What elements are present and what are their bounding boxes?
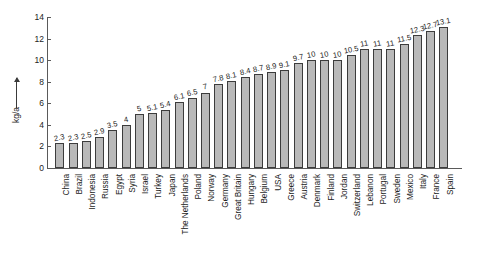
bar[interactable] (360, 49, 369, 168)
bar-value-label: 11 (373, 40, 382, 49)
bar[interactable] (175, 102, 184, 168)
x-axis-label: Finland (328, 174, 336, 201)
bar[interactable] (148, 113, 157, 168)
bar-value-label: 5.1 (146, 103, 158, 113)
x-axis-label: Jordan (341, 174, 349, 199)
bar-value-label: 10 (306, 50, 316, 59)
bar[interactable] (280, 70, 289, 168)
bar[interactable] (227, 81, 236, 168)
bar-value-label: 9.7 (292, 53, 304, 63)
bar[interactable] (333, 60, 342, 168)
x-axis-label: Norway (208, 174, 216, 202)
bar-value-label: 8.4 (239, 67, 251, 77)
bar[interactable] (108, 130, 117, 168)
x-axis-label: China (63, 174, 71, 195)
bar-slot: 11.5 (398, 17, 410, 168)
bar-value-label: 2.3 (67, 133, 79, 143)
x-axis-label: USA (275, 174, 283, 191)
bar-value-label: 2.5 (80, 131, 92, 141)
x-axis-label: Germany (222, 174, 230, 208)
bar-slot: 8.1 (226, 17, 238, 168)
bar[interactable] (267, 72, 276, 168)
bar-value-label: 5.4 (160, 100, 172, 110)
bar-value-label: 2.3 (54, 133, 66, 143)
bar[interactable] (95, 137, 104, 168)
bar[interactable] (82, 141, 91, 168)
bar-slot: 5.4 (160, 17, 172, 168)
y-axis-tick-label: 12 (35, 35, 44, 44)
x-axis-label: Turkey (155, 174, 163, 199)
y-axis-tick-label: 2 (39, 142, 44, 151)
bar-slot: 10 (332, 17, 344, 168)
bar[interactable] (320, 60, 329, 168)
bar-slot: 11 (385, 17, 397, 168)
bar-slot: 8.9 (266, 17, 278, 168)
x-axis-label: The Netherlands (182, 174, 190, 235)
bar-slot: 12.3 (412, 17, 424, 168)
bar-value-label: 10.5 (343, 44, 359, 55)
bar[interactable] (55, 143, 64, 168)
bar[interactable] (307, 60, 316, 168)
bar-slot: 12.7 (425, 17, 437, 168)
bar[interactable] (135, 114, 144, 168)
bar-value-label: 11.5 (396, 34, 411, 44)
y-axis-tick-label: 4 (39, 121, 44, 130)
y-axis-tick-label: 6 (39, 99, 44, 108)
bar[interactable] (122, 125, 131, 168)
bar-value-label: 4 (123, 115, 129, 123)
bar-slot: 4 (120, 17, 132, 168)
x-axis-label: Portugal (380, 174, 388, 205)
bar-slot: 8.7 (253, 17, 265, 168)
bar-slot: 5.1 (147, 17, 159, 168)
bar[interactable] (426, 31, 435, 168)
bar[interactable] (400, 44, 409, 168)
bar[interactable] (347, 55, 356, 168)
bar-slot: 9.1 (279, 17, 291, 168)
y-axis-title-group: kg/a (9, 78, 25, 140)
bar-slot: 9.7 (293, 17, 305, 168)
bar[interactable] (69, 143, 78, 168)
bar-value-label: 13.1 (435, 16, 451, 27)
x-axis-label: Lebanon (367, 174, 375, 206)
bar[interactable] (294, 63, 303, 168)
bar-slot: 7 (200, 17, 212, 168)
bar-value-label: 9.1 (279, 60, 291, 70)
x-axis-label: Spain (447, 174, 455, 195)
y-axis-tick-label: 14 (35, 13, 44, 22)
bar-slot: 10.5 (346, 17, 358, 168)
x-axis-label: Sweden (394, 174, 402, 204)
bar-slot: 8.4 (240, 17, 252, 168)
bar[interactable] (254, 74, 263, 168)
bar-value-label: 8.1 (226, 71, 238, 81)
bar-value-label: 7 (202, 83, 208, 91)
x-axis-label: Brazil (76, 174, 84, 194)
x-axis-label: France (433, 174, 441, 199)
bar-slot: 11 (359, 17, 371, 168)
x-axis-line (47, 168, 462, 169)
bar-slot: 11 (372, 17, 384, 168)
x-axis-label: Russia (102, 174, 110, 199)
bar-slot: 6.5 (187, 17, 199, 168)
bar[interactable] (161, 110, 170, 168)
x-axis-label: Italy (420, 174, 428, 189)
bar[interactable] (373, 49, 382, 168)
x-axis-label: Denmark (314, 174, 322, 207)
bar[interactable] (439, 27, 448, 168)
y-axis-tick-label: 0 (39, 164, 44, 173)
bar-value-label: 10 (319, 50, 329, 59)
bar[interactable] (214, 84, 223, 168)
bar[interactable] (413, 35, 422, 168)
bar-chart: kg/a 02468101214 2.32.32.52.93.5455.15.4… (0, 0, 477, 257)
bar-value-label: 7.8 (212, 74, 224, 84)
y-axis-tick-label: 10 (35, 56, 44, 65)
bar[interactable] (241, 77, 250, 168)
bar[interactable] (201, 93, 210, 169)
bar[interactable] (386, 49, 395, 168)
bar-value-label: 3.5 (107, 120, 119, 130)
bar-value-label: 11 (386, 40, 395, 49)
bar[interactable] (188, 98, 197, 168)
x-axis-label: Poland (195, 174, 203, 200)
x-axis-label: Belgium (261, 174, 269, 204)
x-axis-label: Japan (169, 174, 177, 196)
bar-value-label: 6.1 (173, 92, 185, 102)
